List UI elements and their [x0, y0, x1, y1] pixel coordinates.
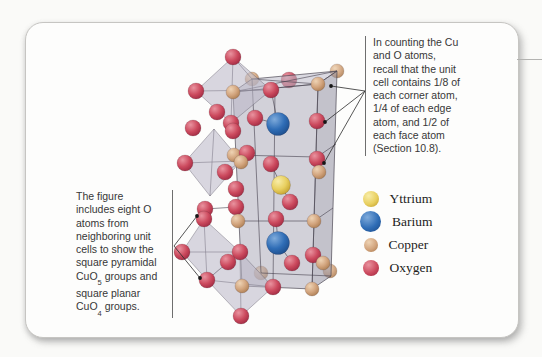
legend-label: Yttrium — [390, 191, 433, 207]
note-line: includes eight O — [76, 203, 166, 216]
oxygen-sphere-icon — [363, 260, 379, 276]
note-line: square pyramidal — [76, 256, 166, 269]
annotation-counting-atoms: In counting the Cuand O atoms,recall tha… — [365, 36, 469, 156]
note-line: each corner atom, — [373, 89, 469, 102]
legend-item-barium: Barium — [360, 213, 433, 230]
legend-item-copper: Copper — [360, 236, 433, 253]
note-line: and O atoms, — [373, 49, 469, 62]
note-line: recall that the unit — [373, 63, 469, 76]
note-line: In counting the Cu — [373, 36, 469, 49]
annotation-neighboring-atoms: The figureincludes eight Oatoms fromneig… — [76, 190, 173, 318]
note-line: atoms from — [76, 217, 166, 230]
note-line: neighboring unit — [76, 230, 166, 243]
legend-label: Copper — [389, 237, 429, 253]
note-line: cell contains 1/8 of — [373, 76, 469, 89]
atom-legend: YttriumBariumCopperOxygen — [360, 190, 433, 282]
legend-label: Barium — [392, 214, 433, 230]
barium-sphere-icon — [360, 211, 381, 232]
legend-item-oxygen: Oxygen — [360, 259, 433, 276]
legend-item-yttrium: Yttrium — [360, 190, 433, 207]
note-line: 1/4 of each edge — [373, 102, 469, 115]
note-line: The figure — [76, 190, 166, 203]
legend-label: Oxygen — [390, 260, 433, 276]
note-line: CuO4 groups. — [76, 300, 166, 317]
yttrium-sphere-icon — [363, 191, 379, 207]
note-line: atom, and 1/2 of — [373, 116, 469, 129]
note-line: CuO5 groups and — [76, 270, 166, 287]
copper-sphere-icon — [364, 238, 378, 252]
note-line: each face atom — [373, 129, 469, 142]
note-line: cells to show the — [76, 243, 166, 256]
page-margin-rule — [517, 59, 542, 60]
note-line: (Section 10.8). — [373, 142, 469, 155]
note-line: square planar — [76, 287, 166, 300]
